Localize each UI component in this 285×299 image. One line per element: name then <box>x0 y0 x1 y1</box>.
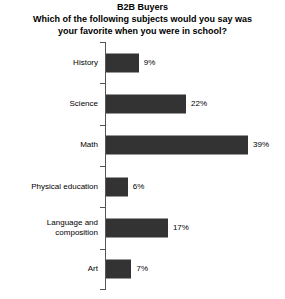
chart-title-block: B2B Buyers Which of the following subjec… <box>0 2 285 37</box>
bar-row: History9% <box>0 42 285 83</box>
bar-value-label: 6% <box>133 182 145 192</box>
bar <box>106 260 131 279</box>
plot-area: History9%Science22%Math39%Physical educa… <box>0 42 285 292</box>
category-label: Science <box>0 99 98 109</box>
bar-row: Art7% <box>0 249 285 290</box>
category-label: Math <box>0 140 98 150</box>
category-label: Physical education <box>0 182 98 192</box>
bar <box>106 177 128 196</box>
bar-value-label: 7% <box>136 264 148 274</box>
category-label: History <box>0 58 98 68</box>
bar <box>106 53 139 72</box>
bar-value-label: 22% <box>191 99 207 109</box>
bar <box>106 136 248 155</box>
chart-subtitle-line-1: Which of the following subjects would yo… <box>0 13 285 25</box>
bar <box>106 94 186 113</box>
bar-row: Physical education6% <box>0 166 285 207</box>
category-label: Language and composition <box>0 218 98 238</box>
bar-value-label: 17% <box>173 223 189 233</box>
chart-container: B2B Buyers Which of the following subjec… <box>0 0 285 299</box>
page-title: B2B Buyers <box>0 2 285 13</box>
category-label: Art <box>0 264 98 274</box>
bar <box>106 218 168 237</box>
chart-subtitle-line-2: your favorite when you were in school? <box>0 25 285 37</box>
bar-row: Math39% <box>0 125 285 166</box>
bar-row: Language and composition17% <box>0 207 285 248</box>
bar-value-label: 9% <box>144 58 156 68</box>
bar-row: Science22% <box>0 83 285 124</box>
bar-value-label: 39% <box>253 140 269 150</box>
